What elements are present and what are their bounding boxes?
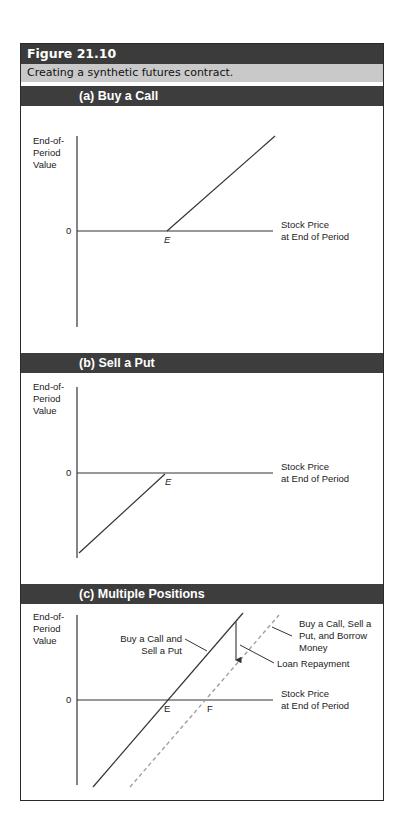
- x-axis-label: Stock Price: [281, 688, 329, 699]
- y-axis-label: Period: [33, 623, 60, 634]
- x-axis-label: at End of Period: [281, 700, 349, 711]
- panel-b-chart: End-of- Period Value 0 Stock Price at En…: [33, 381, 349, 558]
- y-axis-label: Period: [33, 393, 60, 404]
- annotation-solid: Sell a Put: [141, 645, 182, 656]
- x-axis-label: at End of Period: [281, 473, 349, 484]
- annotation-leader: [185, 639, 207, 651]
- charts-svg: End-of- Period Value 0 Stock Price at En…: [0, 0, 408, 838]
- x-axis-label: Stock Price: [281, 461, 329, 472]
- exercise-price-label: E: [164, 234, 171, 245]
- point-e-label: E: [164, 703, 170, 714]
- annotation-dashed: Buy a Call, Sell a: [299, 618, 372, 629]
- annotation-dashed: Put, and Borrow: [299, 630, 367, 641]
- zero-label: 0: [66, 225, 71, 236]
- y-axis-label: Value: [33, 405, 57, 416]
- panel-a-chart: End-of- Period Value 0 Stock Price at En…: [33, 135, 349, 327]
- zero-label: 0: [66, 694, 71, 705]
- x-axis-label: Stock Price: [281, 219, 329, 230]
- annotation-leader: [272, 627, 292, 636]
- zero-label: 0: [66, 467, 71, 478]
- exercise-price-label: E: [165, 476, 172, 487]
- annotation-loan: Loan Repayment: [277, 658, 350, 669]
- y-axis-label: End-of-: [33, 135, 64, 146]
- y-axis-label: Value: [33, 635, 57, 646]
- x-axis-label: at End of Period: [281, 231, 349, 242]
- y-axis-label: End-of-: [33, 381, 64, 392]
- y-axis-label: Value: [33, 159, 57, 170]
- call-payoff-line: [167, 136, 275, 231]
- put-payoff-line: [79, 474, 165, 553]
- panel-c-chart: End-of- Period Value 0 Stock Price at En…: [33, 611, 372, 787]
- annotation-solid: Buy a Call and: [120, 633, 182, 644]
- annotation-dashed: Money: [299, 642, 328, 653]
- y-axis-label: End-of-: [33, 611, 64, 622]
- point-f-label: F: [207, 703, 213, 714]
- y-axis-label: Period: [33, 147, 60, 158]
